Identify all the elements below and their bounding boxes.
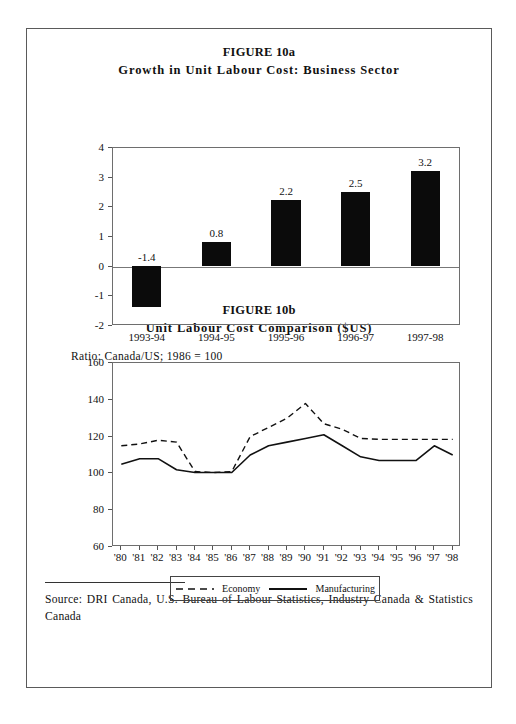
line-chart-x-tick-label: '90	[298, 551, 311, 563]
line-series-economy	[121, 403, 452, 472]
bar-chart-x-tick-label: 1996-97	[337, 331, 374, 343]
bar-chart-y-tick-label: 0	[70, 260, 104, 271]
line-chart-x-tick-mark	[139, 546, 140, 550]
bar-chart-y-tick-label: 3	[70, 171, 104, 182]
legend-label-manufacturing: Manufacturing	[315, 583, 374, 594]
bar-value-label: -1.4	[138, 251, 155, 263]
line-chart-x-tick-label: '92	[335, 551, 348, 563]
line-chart-x-tick-mark	[452, 546, 453, 550]
line-chart-x-tick-label: '84	[187, 551, 200, 563]
line-chart-x-tick-label: '86	[224, 551, 237, 563]
bar	[271, 200, 300, 265]
bar-value-label: 0.8	[210, 227, 224, 239]
legend-entry-manufacturing: Manufacturing	[268, 583, 374, 594]
bar-chart-y-tick-label: 2	[70, 201, 104, 212]
line-chart-x-tick-mark	[396, 546, 397, 550]
line-chart-x-tick-label: '91	[316, 551, 329, 563]
line-chart-x-tick-mark	[304, 546, 305, 550]
bar-chart-y-tick-label: 1	[70, 231, 104, 242]
bar-chart-y-tick-mark	[108, 206, 112, 207]
line-chart-x-tick-label: '83	[169, 551, 182, 563]
line-chart-x-tick-mark	[341, 546, 342, 550]
line-chart-y-tick-mark	[108, 399, 112, 400]
bar-chart-y-tick-mark	[108, 266, 112, 267]
bar	[202, 242, 231, 266]
bar-chart-y-tick-mark	[108, 147, 112, 148]
line-chart-x-tick-label: '95	[390, 551, 403, 563]
bar	[132, 266, 161, 308]
line-chart-y-tick-label: 60	[70, 541, 104, 552]
line-chart-y-tick-label: 80	[70, 504, 104, 515]
figure-10a-title-line2: Growth in Unit Labour Cost: Business Sec…	[27, 63, 491, 78]
line-chart-x-tick-mark	[433, 546, 434, 550]
line-chart-x-tick-mark	[212, 546, 213, 550]
line-chart-x-tick-mark	[323, 546, 324, 550]
bar-value-label: 2.5	[349, 177, 363, 189]
line-chart-x-tick-mark	[268, 546, 269, 550]
line-chart-y-tick-mark	[108, 436, 112, 437]
legend-entry-economy: Economy	[175, 583, 260, 594]
line-chart-x-tick-mark	[286, 546, 287, 550]
line-chart-x-tick-label: '82	[151, 551, 164, 563]
line-chart-x-tick-mark	[360, 546, 361, 550]
bar-chart-y-tick-label: -1	[70, 290, 104, 301]
line-chart-x-tick-label: '88	[261, 551, 274, 563]
line-chart: 1601401201008060 '80'81'82'83'84'85'86'8…	[27, 362, 493, 582]
figure-10a-header: FIGURE 10a Growth in Unit Labour Cost: B…	[27, 45, 491, 78]
legend-label-economy: Economy	[222, 583, 260, 594]
bar	[341, 192, 370, 266]
line-chart-y-tick-mark	[108, 546, 112, 547]
line-chart-y-tick-mark	[108, 472, 112, 473]
bar-chart: 43210-1-2 -1.40.82.22.53.2 1993-941994-9…	[27, 78, 493, 293]
line-chart-x-tick-mark	[176, 546, 177, 550]
bar-chart-x-tick-label: 1994-95	[198, 331, 235, 343]
line-chart-x-tick-label: '96	[408, 551, 421, 563]
chart-legend: Economy Manufacturing	[170, 576, 380, 601]
line-chart-series-svg	[113, 363, 461, 547]
line-chart-x-tick-mark	[120, 546, 121, 550]
line-chart-plot-area	[112, 362, 460, 546]
ratio-note: Ratio: Canada/US; 1986 = 100	[71, 350, 491, 362]
line-chart-x-tick-mark	[249, 546, 250, 550]
bar-chart-y-tick-mark	[108, 177, 112, 178]
line-chart-x-tick-label: '87	[243, 551, 256, 563]
bar-chart-y-tick-mark	[108, 295, 112, 296]
bar-chart-y-tick-label: 4	[70, 142, 104, 153]
line-chart-y-tick-label: 120	[70, 430, 104, 441]
line-chart-y-tick-mark	[108, 509, 112, 510]
line-chart-x-tick-label: '80	[114, 551, 127, 563]
line-chart-x-tick-label: '85	[206, 551, 219, 563]
line-chart-x-tick-mark	[378, 546, 379, 550]
line-chart-x-tick-mark	[157, 546, 158, 550]
line-chart-x-tick-label: '98	[445, 551, 458, 563]
bar-chart-y-tick-label: -2	[70, 320, 104, 331]
bar-chart-zero-line	[113, 267, 459, 268]
line-chart-y-tick-label: 160	[70, 357, 104, 368]
line-chart-x-tick-label: '97	[427, 551, 440, 563]
bar-value-label: 2.2	[279, 185, 293, 197]
solid-line-icon	[268, 586, 308, 592]
line-chart-x-tick-mark	[231, 546, 232, 550]
bar-chart-y-tick-mark	[108, 236, 112, 237]
dashed-line-icon	[175, 586, 215, 592]
bar-chart-y-tick-mark	[108, 325, 112, 326]
bar-chart-x-tick-label: 1995-96	[268, 331, 305, 343]
line-chart-x-tick-label: '81	[132, 551, 145, 563]
line-chart-x-tick-mark	[415, 546, 416, 550]
bar-value-label: 3.2	[418, 156, 432, 168]
figure-page: FIGURE 10a Growth in Unit Labour Cost: B…	[26, 28, 492, 688]
line-chart-y-tick-mark	[108, 362, 112, 363]
bar-chart-x-tick-label: 1993-94	[128, 331, 165, 343]
line-chart-x-tick-mark	[194, 546, 195, 550]
line-chart-y-tick-label: 140	[70, 393, 104, 404]
line-chart-x-tick-label: '89	[280, 551, 293, 563]
line-chart-x-tick-label: '94	[372, 551, 385, 563]
bar	[411, 171, 440, 266]
source-divider	[45, 582, 185, 583]
line-chart-x-tick-label: '93	[353, 551, 366, 563]
figure-10a-title-line1: FIGURE 10a	[27, 45, 491, 60]
line-series-manufacturing	[121, 435, 452, 473]
line-chart-y-tick-label: 100	[70, 467, 104, 478]
bar-chart-x-tick-label: 1997-98	[407, 331, 444, 343]
